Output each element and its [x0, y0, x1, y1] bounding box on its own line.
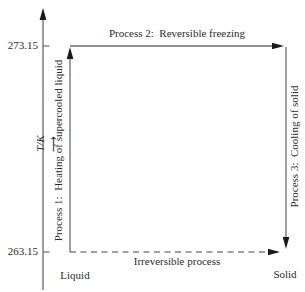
process-diagram: 273.15 263.15 T/K ⟶ Process 1: Heating o… — [0, 0, 305, 292]
y-axis-title: T/K — [34, 135, 46, 152]
tick-label-263: 263.15 — [2, 245, 38, 258]
process2-label: Process 2: Reversible freezing — [77, 27, 277, 40]
tick-label-273: 273.15 — [2, 39, 38, 52]
y-axis-arrowhead-icon — [40, 8, 47, 20]
process2-arrow — [70, 43, 284, 50]
state-label-solid: Solid — [262, 268, 305, 281]
state-label-liquid: Liquid — [52, 269, 98, 282]
process3-arrowhead-icon — [283, 237, 290, 249]
process2-arrowhead-icon — [272, 43, 284, 50]
y-axis-label: T/K ⟶ — [21, 127, 35, 171]
irreversible-process-label: Irreversible process — [77, 255, 277, 268]
process3-label: Process 3: Cooling of solid — [288, 62, 301, 232]
process1-arrowhead-icon — [67, 47, 74, 59]
process1-label: Process 1: Heating of supercooled liquid — [52, 53, 65, 249]
